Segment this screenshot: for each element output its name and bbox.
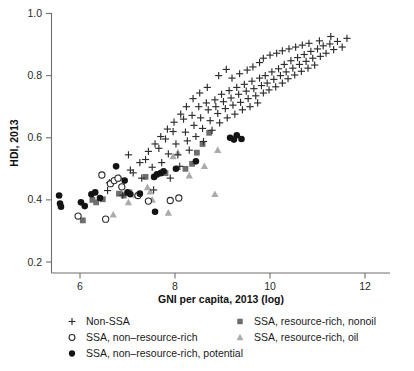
x-axis-title: GNI per capita, 2013 (log) — [158, 293, 284, 305]
legend-label: SSA, non–resource-rich — [86, 331, 198, 343]
data-point-plus — [327, 33, 334, 40]
data-point-plus — [227, 94, 234, 101]
data-point-plus — [326, 40, 333, 47]
data-point-plus — [172, 140, 179, 147]
data-point-plus — [314, 45, 321, 52]
y-tick-label: 0.2 — [27, 256, 42, 268]
data-point-plus — [190, 122, 197, 129]
data-point-plus — [304, 65, 311, 72]
data-point-plus — [195, 103, 202, 110]
data-point-plus — [260, 55, 267, 62]
data-point-filled-circle — [113, 163, 120, 170]
data-point-plus — [142, 156, 149, 163]
data-point-triangle — [186, 172, 193, 179]
y-tick-label: 1.0 — [27, 7, 42, 19]
data-point-plus — [275, 65, 282, 72]
data-point-plus — [281, 61, 288, 68]
data-point-filled-circle — [193, 158, 200, 165]
data-point-plus — [249, 63, 256, 70]
data-point-plus — [189, 112, 196, 119]
data-point-plus — [284, 75, 291, 82]
data-point-plus — [246, 103, 253, 110]
data-point-triangle — [211, 190, 218, 197]
data-point-plus — [237, 99, 244, 106]
data-point-plus — [197, 114, 204, 121]
data-point-plus — [182, 129, 189, 136]
data-point-filled-circle — [238, 136, 245, 143]
data-point-plus — [151, 140, 158, 147]
data-point-plus — [155, 145, 162, 152]
data-point-plus — [165, 150, 172, 157]
data-point-plus — [307, 48, 314, 55]
data-point-plus — [233, 84, 240, 91]
data-point-plus — [270, 76, 277, 83]
data-point-plus — [216, 119, 223, 126]
data-point-plus — [285, 45, 292, 52]
data-point-open-circle — [99, 172, 105, 178]
legend-marker-square — [237, 319, 243, 325]
data-point-open-circle — [75, 213, 81, 219]
data-point-plus — [203, 99, 210, 106]
data-point-filled-circle — [92, 189, 99, 196]
x-axis-ticks: 681012 — [77, 273, 371, 292]
data-point-filled-circle — [97, 195, 104, 202]
data-point-plus — [196, 89, 203, 96]
chart-legend: Non-SSASSA, non–resource-richSSA, non–re… — [69, 315, 376, 359]
data-point-plus — [170, 119, 177, 126]
data-point-plus — [298, 68, 305, 75]
data-point-plus — [212, 103, 219, 110]
data-point-plus — [266, 52, 273, 59]
data-point-plus — [207, 117, 214, 124]
axes — [52, 13, 391, 273]
data-point-plus — [279, 79, 286, 86]
data-point-plus — [241, 81, 248, 88]
data-point-plus — [317, 53, 324, 60]
data-point-plus — [228, 75, 235, 82]
data-point-filled-circle — [58, 203, 65, 210]
data-point-plus — [125, 151, 132, 158]
data-point-open-circle — [115, 175, 121, 181]
data-point-plus — [339, 43, 346, 50]
data-point-plus — [211, 96, 218, 103]
data-point-plus — [309, 55, 316, 62]
data-point-plus — [289, 65, 296, 72]
data-point-plus — [256, 59, 263, 66]
data-point-plus — [252, 92, 259, 99]
data-point-plus — [222, 105, 229, 112]
data-points-layer — [56, 33, 351, 223]
data-point-plus — [322, 50, 329, 57]
data-point-plus — [218, 91, 225, 98]
y-axis-ticks: 0.20.40.60.81.0 — [27, 7, 51, 268]
data-point-plus — [268, 68, 275, 75]
data-point-plus — [248, 78, 255, 85]
data-point-plus — [183, 103, 190, 110]
data-point-plus — [283, 68, 290, 75]
data-point-plus — [330, 46, 337, 53]
data-point-triangle — [214, 146, 221, 153]
data-point-triangle — [110, 211, 117, 218]
data-point-plus — [343, 35, 350, 42]
data-point-plus — [186, 147, 193, 154]
data-point-plus — [158, 159, 165, 166]
data-point-filled-circle — [56, 192, 63, 199]
data-point-square — [194, 150, 200, 156]
data-point-plus — [296, 61, 303, 68]
legend-label: SSA, non–resource-rich, potential — [86, 347, 243, 359]
data-point-plus — [250, 85, 257, 92]
data-point-triangle — [125, 199, 132, 206]
data-point-open-circle — [119, 184, 125, 190]
data-point-plus — [231, 111, 238, 118]
data-point-plus — [294, 54, 301, 61]
data-point-plus — [199, 125, 206, 132]
y-tick-label: 0.8 — [27, 69, 42, 81]
legend-marker-filled-circle — [69, 350, 75, 356]
data-point-square — [183, 166, 189, 172]
data-point-filled-circle — [121, 177, 128, 184]
legend-label: SSA, resource-rich, nonoil — [254, 315, 376, 327]
data-point-plus — [245, 95, 252, 102]
data-point-plus — [223, 66, 230, 73]
data-point-plus — [254, 99, 261, 106]
x-tick-label: 10 — [264, 280, 276, 292]
data-point-open-circle — [145, 198, 151, 204]
data-point-plus — [224, 114, 231, 121]
